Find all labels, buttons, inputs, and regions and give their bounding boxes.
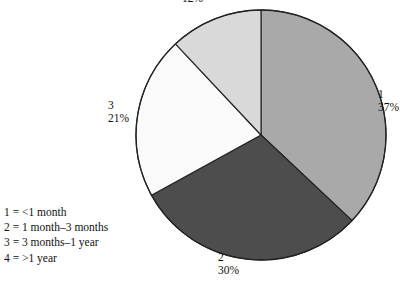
legend-row-4: 4 = >1 year — [4, 251, 108, 266]
pie-label-1: 1 37% — [378, 88, 399, 114]
legend-row-2: 2 = 1 month–3 months — [4, 220, 108, 235]
legend: 1 = <1 month 2 = 1 month–3 months 3 = 3 … — [4, 205, 108, 266]
pie-slice-group — [136, 10, 386, 260]
pie-label-1-category: 1 — [378, 88, 399, 101]
pie-label-4: 12% — [182, 0, 203, 5]
pie-label-4-percent: 12% — [182, 0, 203, 5]
pie-label-3-percent: 21% — [108, 112, 129, 125]
pie-label-1-percent: 37% — [378, 101, 399, 114]
pie-label-2-category: 2 — [218, 251, 239, 264]
pie-label-2: 2 30% — [218, 251, 239, 277]
pie-label-3-category: 3 — [108, 99, 129, 112]
legend-row-3: 3 = 3 months–1 year — [4, 235, 108, 250]
pie-label-2-percent: 30% — [218, 264, 239, 277]
legend-row-1: 1 = <1 month — [4, 205, 108, 220]
pie-label-3: 3 21% — [108, 99, 129, 125]
pie-chart-figure: 1 37% 2 30% 3 21% 12% 1 = <1 month 2 = 1… — [0, 0, 416, 286]
